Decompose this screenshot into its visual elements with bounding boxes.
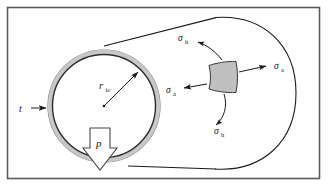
- cylinder-stress-diagram: t r ic p σ h σ h σ a σ a: [0, 0, 328, 187]
- axial-stress-right-label: σ: [274, 61, 279, 71]
- circle-center-dot: [103, 105, 106, 108]
- axial-stress-left-subscript: a: [173, 90, 176, 97]
- hoop-stress-bottom-label: σ: [214, 126, 219, 136]
- figure-container: t r ic p σ h σ h σ a σ a: [0, 0, 328, 187]
- hoop-stress-top-label: σ: [178, 33, 183, 43]
- radius-label-subscript: ic: [106, 86, 111, 94]
- axial-stress-left-label: σ: [166, 85, 171, 95]
- stress-element-patch: [209, 61, 238, 92]
- thickness-label: t: [19, 103, 22, 114]
- pressure-label: p: [95, 137, 102, 149]
- axial-stress-right-subscript: a: [281, 66, 284, 73]
